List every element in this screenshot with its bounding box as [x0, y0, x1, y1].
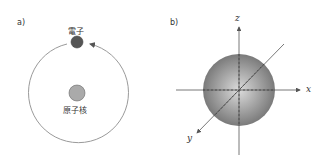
- diagram-canvas: [0, 0, 324, 162]
- panel-b-label: b): [170, 18, 178, 27]
- panel-a-label: a): [17, 18, 25, 27]
- nucleus: [69, 85, 85, 101]
- electron: [71, 36, 83, 48]
- electron-label: 電子: [68, 25, 84, 36]
- nucleus-label: 原子核: [63, 104, 87, 115]
- y-axis-label: y: [187, 133, 192, 143]
- z-axis-label: z: [235, 13, 240, 23]
- x-axis-label: x: [306, 84, 311, 94]
